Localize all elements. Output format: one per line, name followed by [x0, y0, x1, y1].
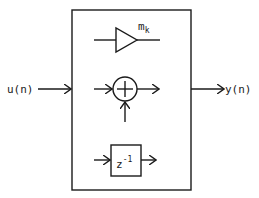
- output-signal: y(n): [191, 83, 252, 96]
- delay-block: z-1: [94, 145, 156, 176]
- output-label: y(n): [225, 83, 252, 96]
- multiplier-label: mk: [138, 20, 150, 35]
- input-label: u(n): [7, 83, 34, 96]
- block-diagram: u(n) y(n) mk z-1: [0, 0, 259, 198]
- adder-block: [94, 77, 159, 122]
- input-signal: u(n): [7, 83, 71, 96]
- multiplier-block: mk: [94, 20, 160, 52]
- triangle-icon: [116, 28, 137, 52]
- delay-label: z-1: [116, 155, 132, 171]
